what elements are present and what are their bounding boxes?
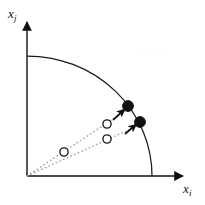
constraint-boundary-arc — [27, 56, 152, 176]
lower-ray-dotted-line — [27, 123, 144, 176]
open-circle-marker — [103, 135, 111, 143]
filled-dot-marker — [123, 101, 134, 112]
y-axis-label: xj — [8, 6, 16, 23]
y-axis-label-subscript: j — [14, 13, 17, 23]
figure-canvas: xj xi ~ ~ ~ ~ — [0, 0, 205, 205]
upper-projection-arrow — [113, 110, 125, 121]
lower-projection-arrow — [125, 125, 136, 135]
open-circle-marker — [60, 148, 68, 156]
filled-dot-marker — [135, 117, 146, 128]
x-axis-label-subscript: i — [189, 188, 192, 198]
scatter-plot-svg — [0, 0, 205, 205]
y-axis-label-base: x — [8, 6, 14, 21]
x-axis-label-base: x — [183, 181, 189, 196]
x-axis-label: xi — [183, 181, 191, 198]
open-circle-marker — [103, 120, 111, 128]
